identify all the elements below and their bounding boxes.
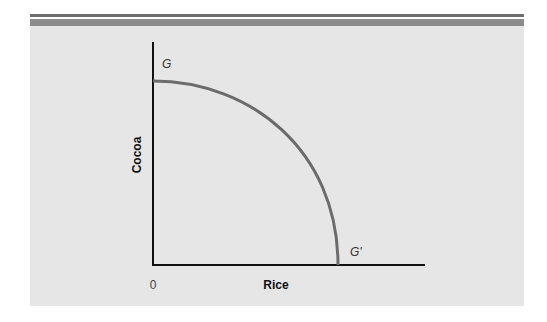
point-g-label: G [162, 57, 171, 71]
y-axis-label: Cocoa [130, 136, 144, 173]
x-axis-label: Rice [263, 278, 289, 292]
ppf-diagram: G G' Rice Cocoa 0 [0, 0, 547, 322]
point-g-prime-label: G' [350, 245, 362, 259]
ppf-curve [153, 81, 338, 265]
origin-label: 0 [150, 278, 157, 292]
